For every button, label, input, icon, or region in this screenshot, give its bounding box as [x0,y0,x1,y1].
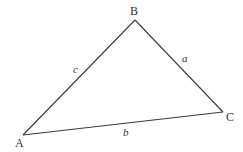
side-c-line [23,20,135,135]
vertex-c-label: C [226,110,234,124]
vertex-b-label: B [130,4,138,18]
vertex-a-label: A [15,136,24,150]
side-b-label: b [123,126,129,138]
side-a-line [135,20,223,112]
triangle-diagram: A B C c a b [0,0,243,152]
side-c-label: c [73,63,78,75]
side-a-label: a [182,52,188,64]
